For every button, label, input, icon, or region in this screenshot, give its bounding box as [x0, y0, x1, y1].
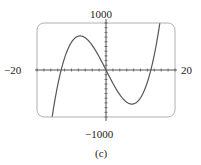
- figure-caption: (c): [95, 147, 107, 159]
- x-min-label: −20: [4, 64, 21, 76]
- y-max-label: 1000: [90, 8, 112, 20]
- plot-area: [0, 0, 201, 165]
- x-max-label: 20: [181, 64, 192, 76]
- y-min-label: −1000: [85, 128, 113, 140]
